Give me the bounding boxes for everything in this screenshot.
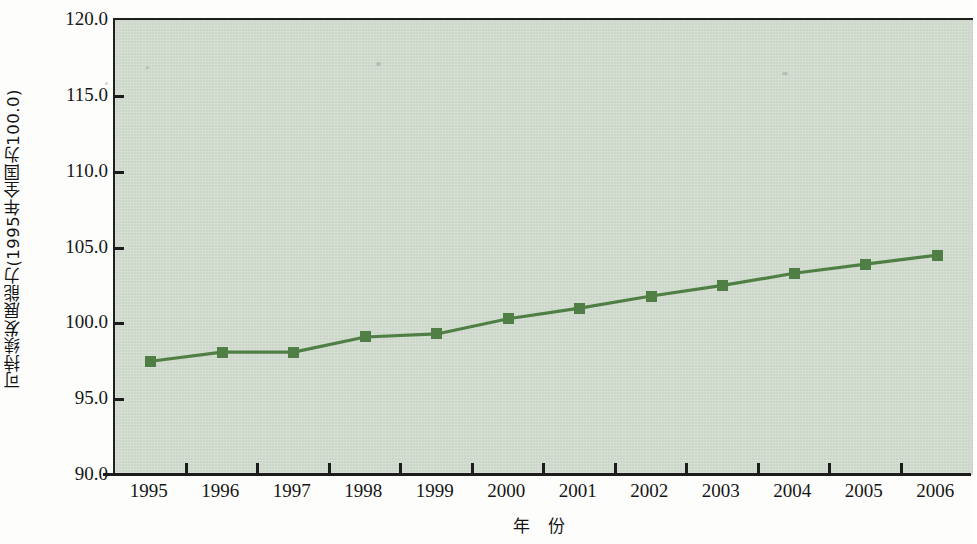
x-axis-tick (328, 463, 331, 474)
data-point-marker (932, 250, 943, 261)
x-axis-title: 年 份 (113, 512, 971, 537)
x-axis-tick (828, 463, 831, 474)
y-axis-title: 可持续发展能力(1995年全国为100.0) (0, 0, 28, 478)
x-axis-line (103, 473, 971, 476)
data-point-marker (646, 291, 657, 302)
data-point-marker (360, 331, 371, 342)
y-axis-title-text: 可持续发展能力(1995年全国为100.0) (2, 89, 26, 389)
y-axis-tick-label: 100.0 (36, 312, 108, 331)
y-axis-tick-label: 105.0 (36, 236, 108, 255)
data-point-marker (574, 303, 585, 314)
y-axis-tick-label: 95.0 (36, 388, 108, 407)
y-axis-tick-label: 110.0 (36, 160, 108, 179)
x-axis-tick (685, 463, 688, 474)
x-axis-tick (900, 463, 903, 474)
data-point-marker (789, 268, 800, 279)
plot-area (113, 18, 973, 475)
data-point-marker (145, 356, 156, 367)
y-axis-tick (113, 398, 124, 401)
x-axis-tick (614, 463, 617, 474)
x-axis-tick (757, 463, 760, 474)
series-line (115, 20, 973, 475)
y-axis-tick (113, 171, 124, 174)
data-point-marker (860, 259, 871, 270)
x-axis-tick (256, 463, 259, 474)
y-axis-tick (113, 247, 124, 250)
data-point-marker (431, 328, 442, 339)
data-point-marker (288, 347, 299, 358)
data-point-marker (217, 347, 228, 358)
x-axis-tick (471, 463, 474, 474)
y-axis-tick-labels: 90.095.0100.0105.0110.0115.0120.0 (30, 0, 108, 544)
x-axis-tick (185, 463, 188, 474)
x-axis-tick (399, 463, 402, 474)
x-axis-title-text: 年 份 (513, 516, 570, 536)
series-polyline (151, 255, 938, 361)
x-axis-tick-label: 2006 (890, 481, 977, 500)
y-axis-tick (113, 322, 124, 325)
y-axis-tick-label: 115.0 (36, 84, 108, 103)
y-axis-tick (113, 95, 124, 98)
y-axis-tick-label: 120.0 (36, 9, 108, 28)
x-axis-tick (542, 463, 545, 474)
data-point-marker (503, 313, 514, 324)
y-axis-tick-label: 90.0 (36, 464, 108, 483)
data-point-marker (717, 280, 728, 291)
